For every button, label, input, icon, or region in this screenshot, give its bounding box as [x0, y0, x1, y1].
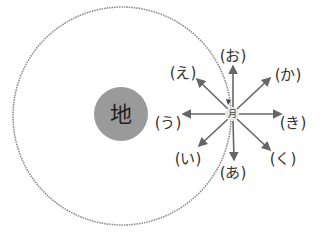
arrow-a: [233, 120, 234, 160]
label-a: (あ): [220, 164, 247, 182]
label-ka: (か): [275, 66, 302, 84]
label-i: (い): [175, 150, 202, 168]
label-ki: (き): [280, 114, 307, 132]
arrow-ku: [237, 119, 270, 150]
arrow-e: [197, 79, 228, 109]
label-o: (お): [220, 47, 247, 65]
arrow-i: [199, 119, 228, 146]
label-ku: (く): [270, 150, 297, 168]
earth-moon-diagram: 地 月 (お) (え) (か) (う) (き) (い) (あ) (く): [0, 0, 323, 246]
label-u: (う): [155, 114, 182, 132]
label-e: (え): [170, 64, 197, 82]
earth-label: 地: [110, 102, 132, 127]
moon-label: 月: [228, 109, 237, 119]
arrow-ka: [237, 78, 270, 109]
